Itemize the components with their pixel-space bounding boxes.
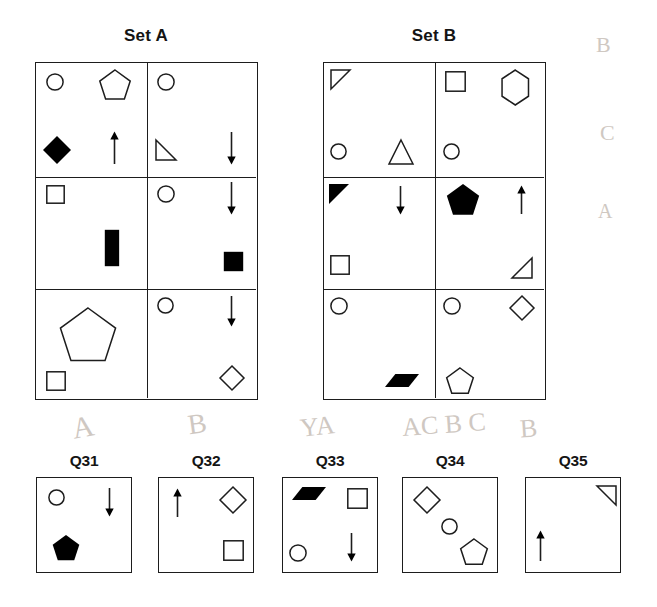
arrow-up-icon [534, 530, 547, 562]
square-outline-icon [223, 540, 244, 561]
pentagon-outline-icon [98, 69, 132, 103]
triangle-right-outline-icon [596, 485, 617, 506]
set-b-cell-r2c2 [435, 177, 546, 291]
hexagon-outline-icon [499, 69, 532, 106]
set-a-cell-r3c2 [147, 289, 258, 403]
set-b-title: Set B [374, 26, 494, 46]
diamond-outline-icon [413, 486, 441, 514]
triangle-right-filled-icon [328, 183, 350, 205]
square-outline-icon [46, 371, 66, 391]
circle-outline-icon [441, 518, 458, 535]
arrow-up-icon [171, 488, 184, 518]
arrow-down-icon [103, 487, 116, 517]
set-a-title: Set A [86, 26, 206, 46]
pencil-mark-b: B [186, 407, 209, 441]
set-b-cell-r3c2 [435, 289, 546, 403]
triangle-right-outline-icon [155, 139, 177, 161]
circle-outline-icon [289, 544, 307, 562]
square-filled-icon [223, 251, 244, 272]
pentagon-outline-icon [459, 538, 489, 568]
arrow-down-icon [225, 295, 238, 327]
q34-box[interactable] [402, 477, 498, 573]
diamond-outline-icon [509, 295, 535, 321]
arrow-down-icon [225, 131, 238, 165]
diamond-filled-icon [42, 135, 72, 165]
q31-box[interactable] [36, 477, 132, 573]
q32-box[interactable] [158, 477, 254, 573]
pencil-mark-edge: B [596, 32, 611, 58]
square-outline-icon [330, 255, 350, 275]
q32-label: Q32 [158, 452, 254, 470]
square-outline-icon [46, 185, 65, 204]
pentagon-filled-icon [51, 534, 81, 564]
arrow-up-icon [108, 131, 121, 165]
set-a-matrix [35, 62, 258, 400]
q35-box[interactable] [525, 477, 621, 573]
circle-outline-icon [48, 489, 65, 506]
set-a-cell-r2c1 [36, 177, 147, 291]
circle-outline-icon [157, 73, 175, 91]
q35-label: Q35 [525, 452, 621, 470]
triangle-right-outline-icon [511, 257, 533, 279]
arrow-up-icon [515, 185, 528, 215]
circle-outline-icon [443, 297, 461, 315]
square-outline-icon [347, 488, 368, 509]
arrow-down-icon [345, 532, 358, 562]
pencil-mark-a: A [69, 408, 96, 445]
pencil-mark-edge2: C [600, 120, 615, 146]
pencil-mark-b2: B [519, 413, 538, 444]
set-b-cell-r1c1 [324, 63, 435, 177]
pentagon-outline-icon [445, 367, 475, 397]
q31-label: Q31 [36, 452, 132, 470]
pentagon-filled-icon [445, 183, 481, 219]
set-b-cell-r3c1 [324, 289, 435, 403]
circle-outline-icon [330, 143, 347, 160]
set-a-cell-r1c1 [36, 63, 147, 177]
parallelogram-filled-icon [384, 373, 420, 388]
q33-box[interactable] [282, 477, 378, 573]
circle-outline-icon [157, 185, 175, 203]
q34-label: Q34 [402, 452, 498, 470]
square-outline-icon [445, 71, 466, 92]
triangle-right-outline-icon [330, 69, 351, 90]
rectangle-filled-icon [104, 229, 120, 267]
pentagon-outline-icon [58, 307, 118, 367]
worksheet-page: ABYAAC B CBBCA Set ASet B Q31Q32Q33Q34Q3… [0, 0, 657, 607]
circle-outline-icon [157, 297, 174, 314]
set-a-cell-r1c2 [147, 63, 258, 177]
set-a-cell-r2c2 [147, 177, 258, 291]
set-b-cell-r1c2 [435, 63, 546, 177]
parallelogram-filled-icon [291, 486, 327, 501]
set-b-cell-r2c1 [324, 177, 435, 291]
triangle-up-outline-icon [388, 139, 414, 165]
circle-outline-icon [330, 297, 348, 315]
arrow-down-icon [394, 185, 407, 215]
set-a-cell-r3c1 [36, 289, 147, 403]
pencil-mark-ya: YA [299, 410, 337, 443]
diamond-outline-icon [219, 486, 247, 514]
pencil-mark-edge3: A [598, 200, 612, 223]
q33-label: Q33 [282, 452, 378, 470]
set-b-matrix [323, 62, 546, 400]
arrow-down-icon [225, 181, 238, 215]
pencil-mark-acbc: AC B C [401, 407, 487, 443]
circle-outline-icon [46, 73, 64, 91]
circle-outline-icon [443, 143, 460, 160]
diamond-outline-icon [219, 365, 245, 391]
